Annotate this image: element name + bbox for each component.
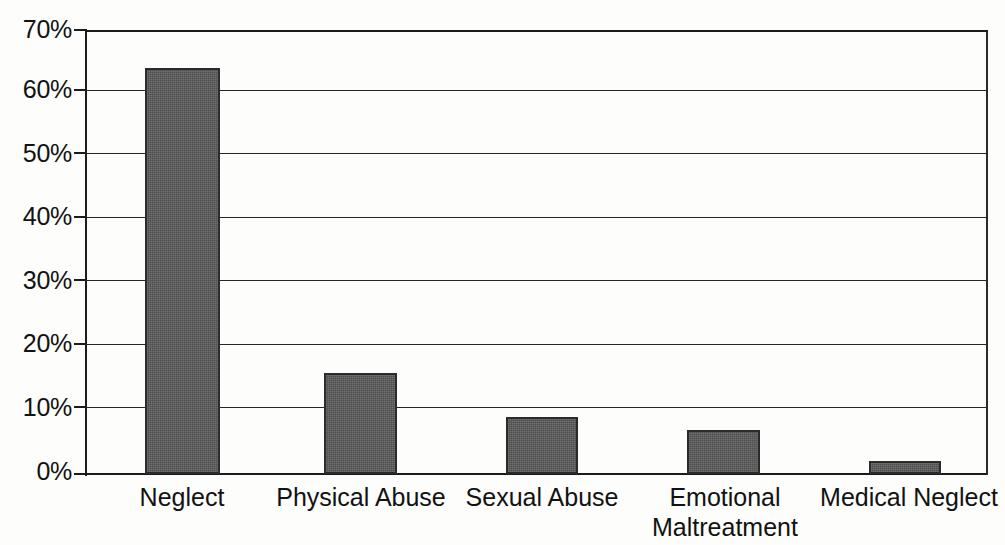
x-label-medical-neglect-line1: Medical Neglect	[820, 483, 998, 511]
y-tick-label-50: 50%	[0, 141, 72, 166]
bar-physical-abuse	[324, 373, 397, 475]
y-tick-label-70: 70%	[0, 17, 72, 42]
x-label-neglect: Neglect	[107, 482, 257, 512]
gridline-30	[86, 280, 988, 281]
y-tick-label-30: 30%	[0, 268, 72, 293]
x-axis-category-labels: Neglect Physical Abuse Sexual Abuse Emot…	[86, 482, 988, 545]
gridline-70	[86, 30, 988, 32]
x-label-neglect-line1: Neglect	[140, 483, 225, 511]
x-label-emotional-maltreatment-line2: Maltreatment	[632, 512, 818, 542]
gridline-10	[86, 407, 988, 408]
x-label-emotional-maltreatment: Emotional Maltreatment	[632, 482, 818, 542]
y-tick-label-20: 20%	[0, 331, 72, 356]
bar-sexual-abuse	[506, 417, 578, 474]
x-label-sexual-abuse-line1: Sexual Abuse	[466, 483, 619, 511]
x-label-medical-neglect: Medical Neglect	[811, 482, 1005, 512]
y-tick-label-40: 40%	[0, 204, 72, 229]
x-label-physical-abuse-line1: Physical Abuse	[276, 483, 446, 511]
plot-area	[86, 30, 988, 474]
bar-medical-neglect	[869, 461, 941, 474]
y-axis-tick-labels: 70% 60% 50% 40% 30% 20% 10% 0%	[0, 0, 72, 545]
gridline-40	[86, 217, 988, 218]
gridline-20	[86, 344, 988, 345]
bar-emotional-maltreatment	[687, 430, 760, 474]
y-tick-label-0: 0%	[0, 459, 72, 484]
gridline-60	[86, 90, 988, 91]
x-label-sexual-abuse: Sexual Abuse	[452, 482, 632, 512]
bar-chart: 70% 60% 50% 40% 30% 20% 10% 0% Neglect	[0, 0, 1005, 545]
x-label-emotional-maltreatment-line1: Emotional	[669, 483, 780, 511]
bar-neglect	[145, 68, 220, 474]
x-label-physical-abuse: Physical Abuse	[266, 482, 456, 512]
gridline-50	[86, 153, 988, 154]
y-tick-label-60: 60%	[0, 77, 72, 102]
y-tick-label-10: 10%	[0, 395, 72, 420]
